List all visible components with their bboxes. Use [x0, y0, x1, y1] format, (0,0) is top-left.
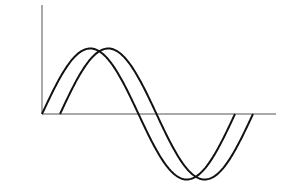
sine-wave-diagram — [0, 0, 283, 193]
